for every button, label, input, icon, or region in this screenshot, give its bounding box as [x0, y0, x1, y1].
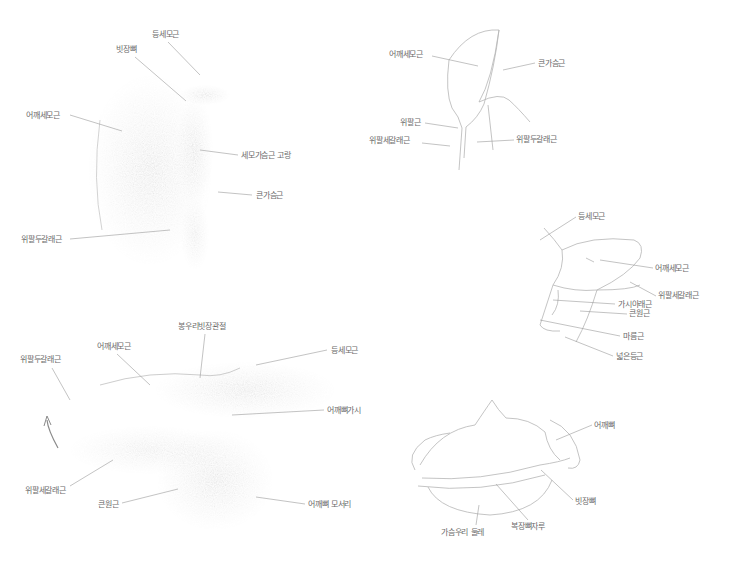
label-scapular-spine: 어깨뼈가시 — [327, 406, 361, 416]
shoulder-girdle-drawing — [412, 400, 580, 515]
label-scapular-angle: 어깨뼈 모서리 — [308, 500, 351, 510]
label-triceps: 위팔세갈래근 — [658, 291, 699, 301]
label-clavicle: 빗장뼈 — [575, 497, 595, 507]
label-acromioclavicular-joint: 봉우리빗장관절 — [178, 322, 226, 332]
label-rhomboid: 마름근 — [623, 332, 643, 342]
label-clavicle: 빗장뼈 — [116, 45, 136, 55]
label-deltopectoral-groove: 세모가슴근 고랑 — [241, 151, 291, 161]
label-deltoid: 어깨세모근 — [655, 264, 689, 274]
label-trapezius: 등세모근 — [578, 212, 605, 222]
label-pectoralis-major: 큰가슴근 — [538, 59, 565, 69]
label-deltoid: 어깨세모근 — [97, 342, 131, 352]
anatomy-illustration: 등세모근 빗장뼈 어깨세모근 세모가슴근 고랑 큰가슴근 위팔두갈래근 어깨세모… — [0, 0, 734, 562]
shoulder-front-drawing — [88, 75, 230, 270]
label-latissimus-dorsi: 넓은등근 — [616, 352, 643, 362]
label-pectoralis-major: 큰가슴근 — [256, 191, 283, 201]
label-brachialis: 위팔근 — [400, 118, 420, 128]
shoulder-outline-drawing — [448, 30, 530, 170]
label-biceps: 위팔두갈래근 — [516, 135, 557, 145]
label-trapezius: 등세모근 — [152, 30, 179, 40]
sketch-layer — [0, 0, 734, 562]
label-triceps: 위팔세갈래근 — [369, 136, 410, 146]
label-teres-major: 큰원근 — [98, 500, 118, 510]
label-deltoid: 어깨세모근 — [389, 50, 423, 60]
label-ribcage-perimeter: 가슴우리 둘레 — [441, 528, 484, 538]
label-scapula: 어깨뼈 — [594, 421, 614, 431]
label-biceps: 위팔두갈래근 — [21, 235, 62, 245]
label-manubrium: 복장뼈자루 — [511, 522, 545, 532]
shoulder-back-shaded-drawing — [44, 362, 335, 530]
label-biceps: 위팔두갈래근 — [20, 355, 61, 365]
label-deltoid: 어깨세모근 — [26, 111, 60, 121]
label-trapezius: 등세모근 — [331, 346, 358, 356]
label-teres-major: 큰원근 — [629, 309, 649, 319]
shoulder-back-outline-drawing — [540, 228, 642, 342]
label-triceps: 위팔세갈래근 — [25, 486, 66, 496]
